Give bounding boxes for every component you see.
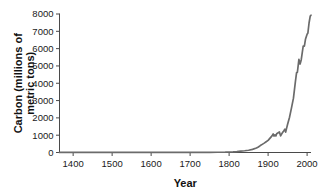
y-tick-label: 7000 bbox=[32, 26, 53, 37]
x-tick-label: 1900 bbox=[258, 158, 279, 169]
carbon-emissions-chart: 0100020003000400050006000700080001400150… bbox=[0, 0, 320, 196]
x-tick-label: 1500 bbox=[102, 158, 123, 169]
data-series-line bbox=[60, 15, 312, 152]
x-tick-label: 1400 bbox=[63, 158, 84, 169]
y-tick-label: 1000 bbox=[32, 130, 53, 141]
x-tick-label: 1800 bbox=[219, 158, 240, 169]
y-tick-label: 8000 bbox=[32, 8, 53, 19]
y-axis-title-line: Carbon (millions of bbox=[12, 33, 24, 134]
x-tick-label: 2000 bbox=[297, 158, 318, 169]
y-axis-title-line: metric tons) bbox=[24, 51, 36, 114]
y-tick-label: 0 bbox=[48, 147, 53, 158]
chart-canvas: 0100020003000400050006000700080001400150… bbox=[0, 0, 320, 196]
x-tick-label: 1700 bbox=[180, 158, 201, 169]
x-tick-label: 1600 bbox=[141, 158, 162, 169]
x-axis-title: Year bbox=[174, 177, 198, 189]
